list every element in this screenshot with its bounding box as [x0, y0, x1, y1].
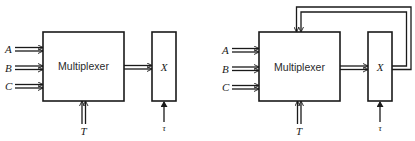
input-c-bus: C	[5, 80, 43, 92]
clock-tau-input: τ	[162, 102, 166, 133]
register-x-label: X	[376, 61, 385, 73]
multiplexer-label: Multiplexer	[274, 61, 325, 73]
input-a-label: A	[4, 43, 12, 55]
control-t-label: T	[296, 125, 303, 137]
input-c-label: C	[5, 80, 13, 92]
input-a-bus: A	[221, 44, 259, 56]
control-t-bus: T	[296, 101, 303, 137]
clock-tau-input: τ	[378, 102, 382, 133]
input-b-label: B	[222, 63, 229, 75]
diagram-without-feedback: A B C Multiplexer X T	[4, 32, 176, 137]
control-t-label: T	[80, 125, 87, 137]
input-b-bus: B	[5, 62, 43, 74]
input-b-bus: B	[222, 63, 259, 75]
input-c-bus: C	[222, 81, 259, 93]
control-t-bus: T	[80, 101, 87, 137]
multiplexer-label: Multiplexer	[58, 60, 109, 72]
clock-tau-label: τ	[378, 123, 382, 133]
input-b-label: B	[5, 62, 12, 74]
diagram-canvas: A B C Multiplexer X T	[0, 0, 415, 141]
input-a-label: A	[221, 44, 229, 56]
input-c-label: C	[222, 81, 230, 93]
diagram-with-feedback: A B C Multiplexer X	[221, 7, 411, 137]
mux-to-register-bus	[124, 66, 152, 70]
clock-tau-label: τ	[162, 123, 166, 133]
register-x-label: X	[160, 61, 169, 73]
mux-to-register-bus	[340, 66, 368, 70]
input-a-bus: A	[4, 43, 43, 55]
